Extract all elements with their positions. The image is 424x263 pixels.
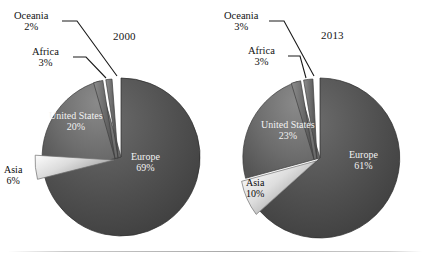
leader-line-africa xyxy=(288,56,306,78)
slice-label-asia-pct: 6% xyxy=(4,176,22,187)
bottom-divider xyxy=(8,251,422,252)
slice-label-united-states-2013: United States 23% xyxy=(261,120,315,142)
chart-title-2000: 2000 xyxy=(113,30,136,42)
callout-africa-2013: Africa 3% xyxy=(248,45,275,67)
callout-oceania-pct: 3% xyxy=(224,21,258,32)
callout-africa-pct: 3% xyxy=(32,57,59,68)
callout-africa-2000: Africa 3% xyxy=(32,46,59,68)
callout-africa-pct: 3% xyxy=(248,56,275,67)
pie-chart-2000: 2000 Oceania 2% Africa 3% United States … xyxy=(0,0,212,263)
pie-chart-figure: 2000 Oceania 2% Africa 3% United States … xyxy=(0,0,424,263)
callout-oceania-name: Oceania xyxy=(14,10,48,21)
callout-africa-name: Africa xyxy=(32,46,59,57)
leader-line-oceania xyxy=(269,21,314,76)
leader-line-africa xyxy=(73,57,106,78)
slice-label-united-states-2000: United States 20% xyxy=(49,111,103,133)
slice-label-europe-2000: Europe 69% xyxy=(131,152,160,174)
callout-oceania-2013: Oceania 3% xyxy=(224,10,258,32)
leader-line-oceania xyxy=(62,21,117,76)
pie-chart-2013: 2013 Oceania 3% Africa 3% United States … xyxy=(212,0,424,263)
slice-label-europe-pct: 69% xyxy=(131,163,160,174)
slice-label-europe-pct: 61% xyxy=(349,161,378,172)
callout-oceania-pct: 2% xyxy=(14,21,48,32)
slice-label-us-pct: 20% xyxy=(49,122,103,133)
callout-oceania-name: Oceania xyxy=(224,10,258,21)
slice-label-asia-pct: 10% xyxy=(246,189,264,200)
slice-label-europe-2013: Europe 61% xyxy=(349,150,378,172)
slice-label-asia-2013: Asia 10% xyxy=(246,178,264,200)
pie-graphic-2000 xyxy=(0,0,212,263)
callout-africa-name: Africa xyxy=(248,45,275,56)
slice-label-us-pct: 23% xyxy=(261,131,315,142)
chart-title-2013: 2013 xyxy=(321,29,344,41)
slice-label-asia-2000: Asia 6% xyxy=(4,165,22,187)
callout-oceania-2000: Oceania 2% xyxy=(14,10,48,32)
pie-graphic-2013 xyxy=(212,0,424,263)
